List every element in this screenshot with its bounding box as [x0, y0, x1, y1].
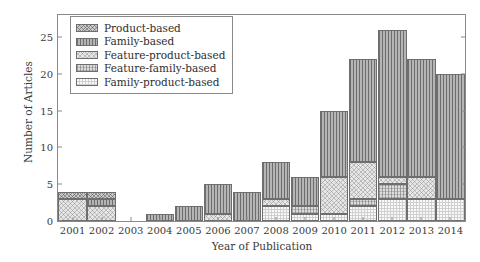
legend-swatch-famprod [76, 78, 98, 86]
x-axis-tick-label: 2013 [409, 221, 434, 236]
y-axis-tick-mark [461, 147, 465, 148]
stacked-bar[interactable] [204, 184, 232, 221]
stacked-bar[interactable] [320, 111, 348, 221]
legend-item-label: Family-product-based [104, 76, 220, 88]
bar-segment-featprod[interactable] [407, 177, 435, 199]
bar-segment-product[interactable] [87, 192, 115, 199]
bar-segment-family[interactable] [291, 177, 319, 206]
legend-item-label: Feature-product-based [104, 49, 225, 61]
x-axis-tick-mark [217, 217, 218, 221]
x-axis-tick-label: 2010 [321, 221, 346, 236]
chart-legend: Product-basedFamily-basedFeature-product… [70, 16, 233, 94]
y-axis-tick-mark [58, 110, 62, 111]
bar-segment-featfam[interactable] [291, 206, 319, 213]
y-axis-tick-label: 5 [47, 179, 58, 190]
y-axis-tick-label: 25 [40, 32, 58, 43]
y-axis-tick-mark [461, 184, 465, 185]
stacked-bar[interactable] [262, 162, 290, 221]
x-axis-tick-label: 2004 [147, 221, 172, 236]
bar-segment-featfam[interactable] [378, 184, 406, 199]
bar-segment-family[interactable] [436, 74, 464, 199]
x-axis-tick-mark [101, 217, 102, 221]
x-axis-label: Year of Publication [57, 240, 467, 252]
y-axis-tick-mark [461, 110, 465, 111]
y-axis-tick-label: 15 [40, 105, 58, 116]
x-axis-tick-mark [334, 217, 335, 221]
y-axis-tick-label: 0 [47, 216, 58, 227]
y-axis-tick-label: 20 [40, 68, 58, 79]
legend-swatch-product [76, 24, 98, 32]
x-axis-tick-label: 2001 [60, 221, 85, 236]
legend-swatch-featprod [76, 51, 98, 59]
bar-segment-product[interactable] [58, 192, 86, 199]
bar-segment-featprod[interactable] [320, 177, 348, 214]
x-axis-tick-mark [246, 217, 247, 221]
x-axis-tick-mark [392, 217, 393, 221]
legend-item-label: Product-based [104, 22, 181, 34]
bar-segment-featprod[interactable] [378, 177, 406, 184]
y-axis-tick-mark [461, 37, 465, 38]
legend-item[interactable]: Feature-family-based [76, 62, 225, 74]
x-axis-tick-mark [363, 217, 364, 221]
legend-item[interactable]: Product-based [76, 22, 225, 34]
bar-segment-family[interactable] [407, 59, 435, 177]
legend-swatch-featfam [76, 64, 98, 72]
y-axis-tick-mark [58, 184, 62, 185]
x-axis-tick-label: 2006 [205, 221, 230, 236]
bar-segment-family[interactable] [204, 184, 232, 213]
y-axis-tick-mark [58, 37, 62, 38]
x-axis-tick-label: 2003 [118, 221, 143, 236]
x-axis-tick-mark [188, 217, 189, 221]
legend-item-label: Feature-family-based [104, 62, 217, 74]
legend-item[interactable]: Family-based [76, 35, 225, 47]
stacked-bar[interactable] [291, 177, 319, 221]
y-axis-tick-mark [461, 73, 465, 74]
x-axis-tick-mark [159, 217, 160, 221]
x-axis-tick-mark [72, 217, 73, 221]
x-axis-tick-label: 2014 [438, 221, 463, 236]
y-axis-tick-mark [58, 147, 62, 148]
bar-segment-featfam[interactable] [349, 199, 377, 206]
stacked-bar[interactable] [378, 30, 406, 221]
bar-segment-featprod[interactable] [349, 162, 377, 199]
x-axis-tick-label: 2009 [292, 221, 317, 236]
x-axis-tick-label: 2008 [263, 221, 288, 236]
y-axis-tick-label: 10 [40, 142, 58, 153]
legend-item[interactable]: Feature-product-based [76, 49, 225, 61]
bar-segment-family[interactable] [262, 162, 290, 199]
bar-segment-family[interactable] [320, 111, 348, 177]
bar-segment-featprod[interactable] [262, 199, 290, 206]
x-axis-tick-label: 2012 [380, 221, 405, 236]
legend-swatch-family [76, 38, 98, 46]
x-axis-tick-mark [305, 217, 306, 221]
x-axis-tick-mark [421, 217, 422, 221]
bar-chart-figure: Number of Articles Year of Publication 0… [0, 0, 480, 262]
bar-segment-family[interactable] [349, 59, 377, 162]
y-axis-label: Number of Articles [22, 32, 34, 192]
legend-item[interactable]: Family-product-based [76, 76, 225, 88]
x-axis-tick-mark [450, 217, 451, 221]
stacked-bar[interactable] [407, 59, 435, 221]
x-axis-tick-mark [276, 217, 277, 221]
x-axis-tick-label: 2011 [351, 221, 376, 236]
x-axis-tick-label: 2002 [89, 221, 114, 236]
stacked-bar[interactable] [349, 59, 377, 221]
legend-item-label: Family-based [104, 35, 174, 47]
bar-segment-family[interactable] [378, 30, 406, 177]
x-axis-tick-mark [130, 217, 131, 221]
x-axis-tick-label: 2007 [234, 221, 259, 236]
y-axis-tick-mark [58, 73, 62, 74]
bar-segment-family[interactable] [87, 199, 115, 206]
x-axis-tick-label: 2005 [176, 221, 201, 236]
